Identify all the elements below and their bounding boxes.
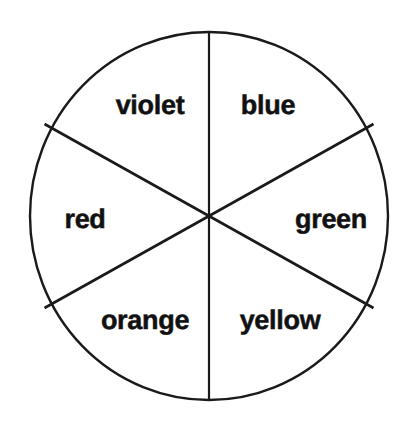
sector-label-blue: blue [241,92,295,119]
sector-label-green: green [295,206,367,233]
sector-label-orange: orange [101,307,189,334]
sector-label-violet: violet [116,92,185,119]
sector-label-yellow: yellow [240,307,321,334]
spinner-figure: violet blue green yellow orange red [0,0,419,432]
sector-label-red: red [64,206,105,233]
